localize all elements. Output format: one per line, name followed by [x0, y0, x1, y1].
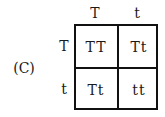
column-header-2: t [116, 5, 158, 21]
punnett-square: TT Tt Tt tt [74, 24, 158, 110]
cell-TT: TT [76, 26, 116, 67]
cell-Tt-top: Tt [119, 26, 159, 67]
row-header-1: T [58, 38, 70, 54]
cell-tt: tt [119, 69, 159, 110]
cell-Tt-bottom: Tt [76, 69, 116, 110]
option-label: (C) [8, 60, 40, 76]
column-header-1: T [74, 5, 116, 21]
row-header-2: t [58, 81, 70, 97]
